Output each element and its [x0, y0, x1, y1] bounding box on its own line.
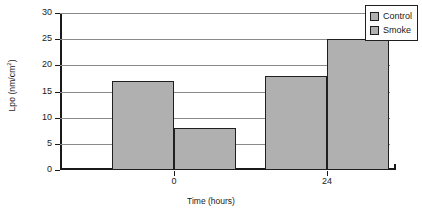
y-axis-tick: [55, 39, 60, 40]
x-axis-title: Time (hours): [0, 196, 422, 206]
legend-label-control: Control: [383, 12, 412, 21]
y-axis-tick-label: 15: [28, 87, 52, 96]
legend-swatch-control: [370, 12, 379, 21]
bar-control-24: [265, 76, 327, 170]
y-axis-tick: [55, 92, 60, 93]
y-axis-tick: [55, 13, 60, 14]
y-axis-tick-label: 20: [28, 60, 52, 69]
y-axis-tick-label: 30: [28, 8, 52, 17]
legend-label-smoke: Smoke: [383, 26, 411, 35]
x-axis-category-label: 0: [144, 176, 204, 186]
y-axis-tick: [55, 170, 60, 171]
gridline: [60, 13, 390, 14]
y-axis-tick: [55, 118, 60, 119]
y-axis-tick: [55, 144, 60, 145]
bar-smoke-0: [174, 128, 236, 170]
y-axis-tick-label: 0: [28, 165, 52, 174]
legend-swatch-smoke: [370, 26, 379, 35]
legend-item-smoke[interactable]: Smoke: [370, 23, 412, 37]
x-axis-category-label: 24: [297, 176, 357, 186]
bar-chart-figure: Lpo (nm/cm2) 302520151050 024 Time (hour…: [0, 0, 422, 218]
plot-area: 302520151050: [60, 13, 390, 170]
x-axis-end-tick: [394, 164, 396, 170]
y-axis-tick-label: 5: [28, 139, 52, 148]
y-axis-tick-label: 10: [28, 113, 52, 122]
bar-control-0: [112, 81, 174, 170]
y-axis-title: Lpo (nm/cm2): [2, 0, 20, 170]
legend-item-control[interactable]: Control: [370, 9, 412, 23]
bar-smoke-24: [327, 39, 389, 170]
y-axis-title-text: Lpo (nm/cm2): [6, 59, 17, 111]
y-axis-tick: [55, 65, 60, 66]
y-axis-tick-label: 25: [28, 34, 52, 43]
legend: Control Smoke: [365, 5, 418, 41]
